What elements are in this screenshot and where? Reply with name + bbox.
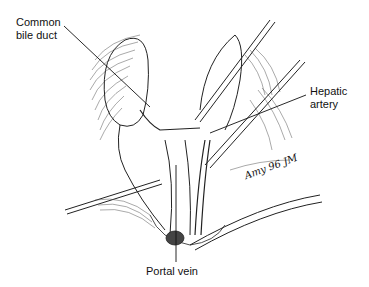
portal-vein-structure	[165, 140, 190, 235]
bile-duct-structure	[140, 110, 200, 130]
leader-common-bile-duct	[64, 26, 150, 107]
hepatic-artery-structure	[195, 140, 210, 235]
retractor-left	[65, 180, 162, 214]
tissue-hatching-left	[90, 35, 140, 140]
retractor-lower-right	[190, 195, 322, 250]
label-portal-vein: Portal vein	[146, 265, 198, 278]
illustration-canvas: Common bile duct Hepatic artery Portal v…	[0, 0, 369, 287]
leader-hepatic-artery	[210, 95, 306, 133]
label-common-bile-duct: Common bile duct	[16, 16, 61, 42]
anatomy-drawing	[0, 0, 369, 287]
label-hepatic-artery: Hepatic artery	[310, 85, 347, 111]
label-line-2: bile duct	[16, 29, 61, 42]
label-line-2: artery	[310, 98, 347, 111]
vessel-stump	[166, 231, 184, 245]
label-line-1: Hepatic	[310, 85, 347, 98]
label-line-1: Common	[16, 16, 61, 29]
right-lobe-outline	[200, 35, 242, 130]
